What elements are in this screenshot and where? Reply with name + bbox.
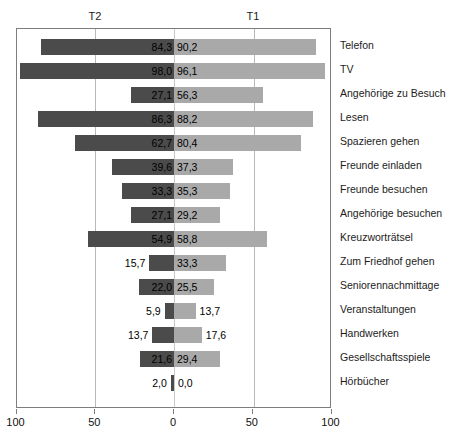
axis-tick-label: 100 — [311, 416, 351, 428]
value-label-t2: 98,0 — [138, 63, 174, 79]
category-label: Veranstaltungen — [340, 297, 416, 321]
value-label-t2: 62,7 — [138, 135, 174, 151]
bar-row: 86,388,2 — [17, 107, 330, 131]
category-label: Lesen — [340, 105, 369, 129]
value-label-t1: 33,3 — [177, 255, 211, 271]
value-label-t2: 21,6 — [138, 351, 174, 367]
axis-tick-label: 0 — [153, 416, 193, 428]
category-label: Handwerken — [340, 321, 399, 345]
value-label-t1: 0,0 — [178, 375, 212, 391]
value-label-t1: 13,7 — [200, 303, 234, 319]
bar-row: 13,717,6 — [17, 323, 330, 347]
value-label-t1: 88,2 — [177, 111, 211, 127]
x-axis: 10050050100 — [16, 408, 331, 442]
bar-row: 5,913,7 — [17, 299, 330, 323]
value-label-t2: 5,9 — [127, 303, 163, 319]
value-label-t1: 90,2 — [177, 39, 211, 55]
category-label: Hörbücher — [340, 369, 389, 393]
category-label: TV — [340, 57, 353, 81]
bar-segment-t1 — [174, 327, 202, 343]
value-label-t1: 29,2 — [177, 207, 211, 223]
value-label-t1: 80,4 — [177, 135, 211, 151]
value-label-t1: 96,1 — [177, 63, 211, 79]
category-label: Angehörige zu Besuch — [340, 81, 446, 105]
bar-row: 62,780,4 — [17, 131, 330, 155]
bar-row: 98,096,1 — [17, 59, 330, 83]
bar-row: 15,733,3 — [17, 251, 330, 275]
value-label-t2: 27,1 — [138, 87, 174, 103]
value-label-t2: 2,0 — [133, 375, 169, 391]
category-label: Angehörige besuchen — [340, 201, 442, 225]
value-label-t1: 58,8 — [177, 231, 211, 247]
bar-row: 21,629,4 — [17, 347, 330, 371]
axis-tick-label: 50 — [232, 416, 272, 428]
group-label-t2: T2 — [75, 10, 115, 22]
category-label: Spazieren gehen — [340, 129, 419, 153]
plot-area: 84,390,298,096,127,156,386,388,262,780,4… — [16, 28, 331, 408]
bar-row: 22,025,5 — [17, 275, 330, 299]
value-label-t1: 17,6 — [206, 327, 240, 343]
axis-tick — [252, 409, 253, 414]
axis-tick-label: 100 — [0, 416, 36, 428]
bar-row: 39,637,3 — [17, 155, 330, 179]
value-label-t2: 13,7 — [114, 327, 150, 343]
bar-segment-t2 — [165, 303, 174, 319]
value-label-t2: 27,1 — [138, 207, 174, 223]
axis-tick — [94, 409, 95, 414]
category-label: Seniorennachmittage — [340, 273, 439, 297]
bar-segment-t1 — [174, 303, 196, 319]
bar-row: 27,156,3 — [17, 83, 330, 107]
bar-segment-t2 — [171, 375, 174, 391]
value-label-t2: 33,3 — [138, 183, 174, 199]
bar-row: 27,129,2 — [17, 203, 330, 227]
value-label-t1: 35,3 — [177, 183, 211, 199]
bar-row: 2,00,0 — [17, 371, 330, 395]
bar-row: 33,335,3 — [17, 179, 330, 203]
group-label-t1: T1 — [233, 10, 273, 22]
axis-tick — [331, 409, 332, 414]
value-label-t1: 37,3 — [177, 159, 211, 175]
value-label-t2: 39,6 — [138, 159, 174, 175]
bidirectional-bar-chart: T2 T1 84,390,298,096,127,156,386,388,262… — [0, 0, 449, 442]
value-label-t2: 86,3 — [138, 111, 174, 127]
category-label: Telefon — [340, 33, 374, 57]
value-label-t2: 54,9 — [138, 231, 174, 247]
bar-row: 84,390,2 — [17, 35, 330, 59]
bar-segment-t2 — [152, 327, 174, 343]
value-label-t1: 29,4 — [177, 351, 211, 367]
axis-tick — [173, 409, 174, 414]
category-label: Freunde besuchen — [340, 177, 428, 201]
category-label: Gesellschaftsspiele — [340, 345, 430, 369]
value-label-t1: 25,5 — [177, 279, 211, 295]
category-label: Kreuzworträtsel — [340, 225, 413, 249]
category-label: Freunde einladen — [340, 153, 422, 177]
value-label-t1: 56,3 — [177, 87, 211, 103]
axis-tick-label: 50 — [74, 416, 114, 428]
bar-segment-t2 — [149, 255, 174, 271]
axis-tick — [16, 409, 17, 414]
value-label-t2: 15,7 — [111, 255, 147, 271]
value-label-t2: 84,3 — [138, 39, 174, 55]
category-label: Zum Friedhof gehen — [340, 249, 435, 273]
value-label-t2: 22,0 — [138, 279, 174, 295]
bar-row: 54,958,8 — [17, 227, 330, 251]
